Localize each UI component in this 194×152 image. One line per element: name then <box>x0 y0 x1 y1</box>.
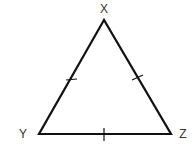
vertex-label-y: Y <box>19 127 27 141</box>
triangle-xyz <box>39 20 171 134</box>
vertex-label-z: Z <box>179 127 186 141</box>
triangle-diagram: X Y Z <box>0 0 194 152</box>
vertex-label-x: X <box>100 2 108 16</box>
tick-mark-xy <box>66 79 77 80</box>
